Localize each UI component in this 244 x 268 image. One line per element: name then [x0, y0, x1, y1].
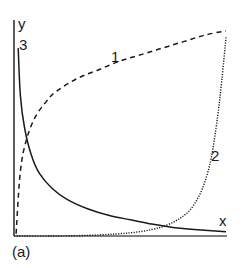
y-axis-label: y [18, 15, 26, 32]
curve-3-solid [18, 48, 226, 232]
curve-1-label: 1 [111, 48, 119, 65]
panel-label: (a) [12, 243, 30, 260]
x-axis-label: x [219, 212, 227, 229]
curve-1-dashed [16, 31, 226, 234]
curve-2-label: 2 [211, 147, 219, 164]
chart: y 3 1 2 x (a) [0, 0, 244, 268]
curve-3-label: 3 [19, 36, 27, 53]
curve-2-dotted [14, 37, 226, 236]
